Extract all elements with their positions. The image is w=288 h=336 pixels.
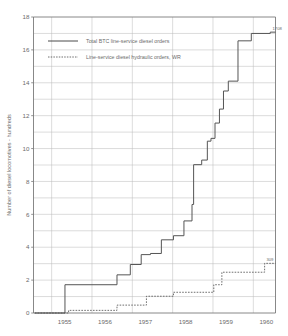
- y-axis-tick-labels: 024681012141618: [23, 13, 30, 316]
- x-tick-label: 1959: [219, 318, 233, 325]
- y-tick-label: 8: [26, 178, 30, 185]
- y-tick-label: 14: [23, 79, 30, 86]
- series-line-1: [35, 32, 276, 313]
- y-axis-title-text: Number of diesel locomotives - hundreds: [6, 114, 12, 216]
- y-tick-label: 6: [26, 211, 30, 218]
- chart-legend: Total BTC line-service diesel ordersLine…: [48, 38, 181, 60]
- data-series: [35, 32, 276, 313]
- y-axis-title: Number of diesel locomotives - hundreds: [6, 114, 12, 216]
- y-tick-label: 4: [26, 243, 30, 250]
- point-annotation-label: 309: [266, 257, 274, 262]
- y-tick-label: 10: [23, 145, 30, 152]
- y-tick-label: 0: [26, 309, 30, 316]
- x-axis-tick-labels: 195519561957195819591960: [58, 318, 274, 325]
- y-tick-label: 16: [23, 46, 30, 53]
- legend-label: Total BTC line-service diesel orders: [86, 38, 170, 44]
- point-annotations: 1708309: [266, 26, 282, 262]
- point-annotation-label: 1708: [272, 26, 282, 31]
- y-tick-label: 2: [26, 276, 30, 283]
- chart-container: 024681012141618 195519561957195819591960…: [0, 0, 288, 336]
- y-tick-label: 12: [23, 112, 30, 119]
- legend-label: Line-service diesel hydraulic orders, WR: [86, 54, 181, 60]
- series-line-2: [35, 263, 276, 313]
- x-tick-label: 1955: [58, 318, 72, 325]
- grid-lines: [34, 17, 276, 313]
- y-tick-label: 18: [23, 13, 30, 20]
- x-tick-label: 1960: [259, 318, 273, 325]
- x-tick-label: 1957: [138, 318, 152, 325]
- chart-svg: 024681012141618 195519561957195819591960…: [0, 0, 288, 336]
- x-tick-label: 1956: [98, 318, 112, 325]
- x-tick-label: 1958: [179, 318, 193, 325]
